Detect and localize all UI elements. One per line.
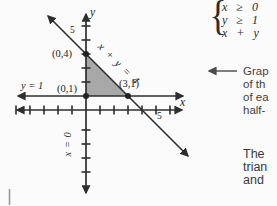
margin-note-line: of th	[243, 78, 269, 91]
x-tick-label-5: 5	[157, 112, 162, 122]
textbook-page-excerpt: y x 5 5 (0,4) (0,1) (3,1) y = 1 x + y = …	[0, 0, 277, 206]
vertex-dot-3-1	[125, 93, 131, 99]
margin-note: Grap of th of ea half-	[243, 65, 269, 117]
point-label-0-4: (0,4)	[52, 49, 72, 60]
margin-note-line: of ea	[243, 91, 269, 104]
system-line-3: x + y	[222, 26, 259, 41]
vertex-dot-0-1	[83, 93, 89, 99]
margin-note-line: half-	[243, 104, 269, 117]
line-label-y-equals-1: y = 1	[21, 81, 43, 92]
x-axis-label: x	[180, 97, 185, 109]
y-tick-label-5: 5	[70, 26, 75, 36]
margin-note-line: Grap	[243, 65, 269, 78]
axis-tick-marks	[16, 26, 170, 172]
vertex-dot-0-4	[83, 51, 89, 57]
point-label-0-1: (0,1)	[57, 84, 77, 95]
y-axis-label: y	[90, 7, 95, 19]
body-paragraph: The trian and	[243, 148, 267, 187]
body-text-line: and	[243, 174, 267, 187]
line-label-x-equals-0: x = 0	[63, 132, 74, 157]
